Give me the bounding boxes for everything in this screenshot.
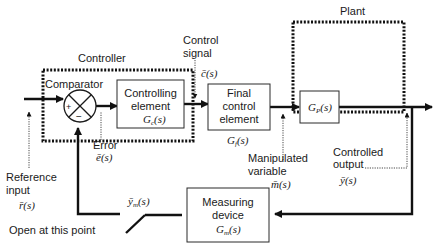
- svg-text:ē(s): ē(s): [96, 151, 113, 164]
- svg-text:input: input: [6, 184, 30, 196]
- svg-text:device: device: [212, 209, 244, 221]
- controller-label: Controller: [78, 52, 126, 64]
- error-annotation: Error ē(s): [93, 112, 118, 164]
- block-diagram: Controller Plant + − Comparator Controll…: [0, 0, 442, 251]
- svg-text:variable: variable: [248, 165, 287, 177]
- final-control-element-tf: Gf(s): [227, 134, 249, 148]
- svg-text:c̄(s): c̄(s): [201, 67, 218, 80]
- measuring-device-tf: Gm(s): [216, 223, 241, 237]
- process-tf: GP(s): [308, 101, 332, 115]
- final-control-element-block: Final control element Gf(s): [208, 84, 270, 148]
- comparator-label: Comparator: [45, 78, 103, 90]
- process-block: GP(s): [300, 91, 339, 123]
- controlled-output-annotation: Controlled output ȳ(s): [333, 113, 407, 187]
- svg-text:output: output: [333, 158, 364, 170]
- svg-text:element: element: [131, 100, 170, 112]
- svg-text:Reference: Reference: [6, 171, 57, 183]
- plus-sign: +: [66, 102, 71, 112]
- svg-text:control: control: [222, 100, 255, 112]
- svg-text:Measuring: Measuring: [202, 196, 253, 208]
- svg-text:ȳ(s): ȳ(s): [339, 174, 357, 187]
- plant-label: Plant: [340, 5, 365, 17]
- svg-text:signal: signal: [183, 47, 212, 59]
- open-switch-line: [126, 215, 145, 233]
- svg-text:r̄(s): r̄(s): [19, 199, 35, 212]
- svg-text:Manipulated: Manipulated: [248, 152, 308, 164]
- svg-text:Error: Error: [93, 139, 118, 151]
- reference-input-annotation: Reference input r̄(s): [6, 112, 57, 212]
- open-point-label: Open at this point: [9, 224, 95, 236]
- svg-text:Controlling: Controlling: [124, 87, 177, 99]
- minus-sign: −: [76, 111, 82, 122]
- controlling-element-tf: Gc(s): [143, 113, 166, 127]
- svg-text:Control: Control: [183, 34, 218, 46]
- svg-text:Controlled: Controlled: [333, 146, 383, 158]
- svg-text:Final: Final: [227, 87, 251, 99]
- svg-text:m̄(s): m̄(s): [271, 178, 291, 191]
- measuring-device-block: Measuring device Gm(s): [187, 188, 269, 242]
- svg-text:element: element: [219, 113, 258, 125]
- measured-signal-label: ȳm(s): [127, 195, 150, 209]
- controlling-element-block: Controlling element Gc(s): [117, 80, 184, 128]
